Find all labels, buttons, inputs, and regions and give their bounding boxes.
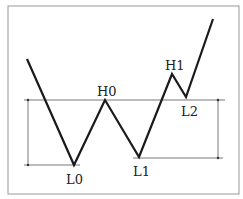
left-dimension-bottom-tick	[27, 164, 29, 166]
left-dimension-top-tick	[27, 99, 29, 101]
label-h0: H0	[97, 84, 117, 99]
label-l1: L1	[133, 164, 150, 179]
label-h1: H1	[165, 58, 185, 73]
label-l2: L2	[181, 104, 198, 119]
double-bottom-diagram: H0 H1 L0 L1 L2	[0, 0, 243, 199]
label-l0: L0	[66, 172, 83, 187]
right-dimension-top-tick	[217, 99, 219, 101]
right-dimension-bottom-tick	[217, 157, 219, 159]
